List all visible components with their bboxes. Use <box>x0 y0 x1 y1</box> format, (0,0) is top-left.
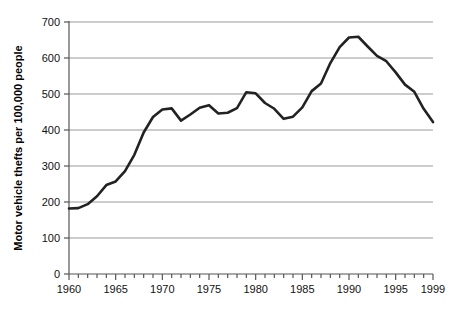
x-axis-tick-labels: 196019651970197519801985199019951999 <box>57 283 445 295</box>
x-tick-label: 1970 <box>150 283 174 295</box>
x-tick-label: 1975 <box>197 283 221 295</box>
y-tick-label: 0 <box>54 268 60 280</box>
line-chart: 0100200300400500600700 19601965197019751… <box>0 0 459 310</box>
x-tick-label: 1960 <box>57 283 81 295</box>
y-tick-label: 300 <box>42 160 60 172</box>
x-tick-label: 1995 <box>383 283 407 295</box>
x-tick-label: 1985 <box>290 283 314 295</box>
y-tick-label: 200 <box>42 196 60 208</box>
y-tick-label: 400 <box>42 124 60 136</box>
y-tick-label: 100 <box>42 232 60 244</box>
y-tick-label: 700 <box>42 16 60 28</box>
x-tick-label: 1990 <box>337 283 361 295</box>
x-tick-label: 1999 <box>421 283 445 295</box>
x-tick-label: 1965 <box>103 283 127 295</box>
y-tick-label: 600 <box>42 52 60 64</box>
chart-container: 0100200300400500600700 19601965197019751… <box>0 0 459 310</box>
x-tick-label: 1980 <box>243 283 267 295</box>
y-tick-label: 500 <box>42 88 60 100</box>
y-axis-title: Motor vehicle thefts per 100,000 people <box>12 45 24 250</box>
